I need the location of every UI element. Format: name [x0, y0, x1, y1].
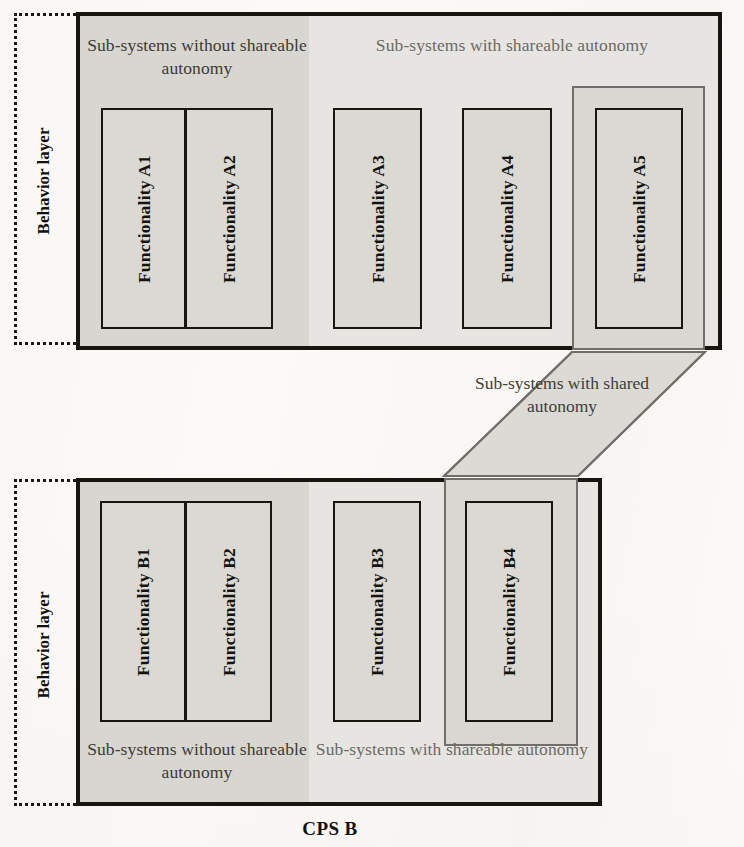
shared-autonomy-caption: Sub-systems with shared autonomy	[452, 372, 672, 419]
functionality-box-b4[interactable]: Functionality B4	[465, 501, 553, 722]
functionality-box-a4[interactable]: Functionality A4	[462, 108, 552, 329]
cps-b-title: CPS B	[0, 818, 660, 840]
functionality-box-a3[interactable]: Functionality A3	[333, 108, 422, 329]
cps-a-container: Sub-systems without shareable autonomy S…	[76, 12, 722, 350]
functionality-label-a3: Functionality A3	[367, 154, 388, 282]
functionality-label-b3: Functionality B3	[367, 547, 388, 675]
functionality-box-a1[interactable]: Functionality A1	[101, 108, 186, 329]
functionality-box-a2[interactable]: Functionality A2	[185, 108, 273, 329]
cps-b-zone-without-label: Sub-systems without shareable autonomy	[86, 738, 308, 784]
behavior-layer-label-a: Behavior layer	[34, 121, 54, 241]
functionality-label-b2: Functionality B2	[218, 547, 239, 675]
functionality-label-a5: Functionality A5	[629, 154, 650, 282]
functionality-label-a4: Functionality A4	[497, 154, 518, 282]
cps-a-zone-with-label: Sub-systems with shareable autonomy	[312, 34, 712, 57]
functionality-label-a1: Functionality A1	[133, 154, 154, 282]
behavior-layer-label-b: Behavior layer	[34, 585, 54, 705]
functionality-box-a5[interactable]: Functionality A5	[595, 108, 683, 329]
cps-b-container: Functionality B1 Functionality B2 Functi…	[76, 478, 602, 806]
cps-a-zone-without-label: Sub-systems without shareable autonomy	[86, 34, 308, 80]
functionality-box-b2[interactable]: Functionality B2	[185, 501, 272, 722]
functionality-label-b4: Functionality B4	[499, 547, 520, 675]
cps-b-zone-with-label: Sub-systems with shareable autonomy	[314, 738, 590, 761]
functionality-label-a2: Functionality A2	[219, 154, 240, 282]
functionality-box-b1[interactable]: Functionality B1	[100, 501, 186, 722]
functionality-box-b3[interactable]: Functionality B3	[333, 501, 421, 722]
functionality-label-b1: Functionality B1	[133, 547, 154, 675]
